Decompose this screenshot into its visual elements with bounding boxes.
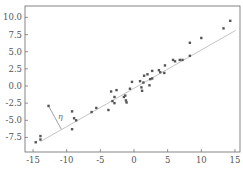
data-point [95, 107, 97, 109]
data-points [35, 20, 232, 144]
data-point [141, 90, 143, 92]
data-point [131, 81, 133, 83]
scatter-chart: -15-10-505101510.07.55.02.50.0-2.5-5.0-7… [0, 0, 243, 170]
data-point [139, 80, 141, 82]
y-tick-label: 7.5 [8, 30, 22, 40]
data-point [181, 59, 183, 61]
x-tick-label: 10 [196, 155, 207, 165]
data-point [71, 110, 73, 112]
x-tick-label: 5 [165, 155, 170, 165]
y-tick-label: 5.0 [8, 47, 22, 57]
residual-label: η [58, 112, 63, 121]
x-tick-label: 0 [131, 155, 136, 165]
data-point [222, 27, 224, 29]
data-point [129, 88, 131, 90]
data-point [115, 89, 117, 91]
data-point [142, 81, 144, 83]
data-point [229, 20, 231, 22]
data-point [39, 135, 41, 137]
regression-line [40, 30, 235, 141]
data-point [75, 119, 77, 121]
data-point [151, 77, 153, 79]
residual-annotation: η [49, 106, 63, 129]
y-tick-label: -7.5 [6, 132, 22, 142]
data-point [107, 109, 109, 111]
data-point [151, 70, 153, 72]
data-point [148, 84, 150, 86]
data-point [189, 42, 191, 44]
axes: -15-10-505101510.07.55.02.50.0-2.5-5.0-7… [3, 6, 240, 165]
data-point [125, 99, 127, 101]
data-point [111, 100, 113, 102]
data-point [179, 59, 181, 61]
data-point [47, 105, 49, 107]
data-point [39, 138, 41, 140]
data-point [73, 117, 75, 119]
x-tick-label: -10 [60, 155, 74, 165]
y-tick-label: 0.0 [8, 81, 22, 91]
data-point [189, 55, 191, 57]
data-point [200, 37, 202, 39]
fit-line [40, 30, 235, 141]
data-point [113, 96, 115, 98]
y-tick-label: 10.0 [3, 12, 22, 22]
plot-frame [25, 6, 240, 152]
data-point [164, 64, 166, 66]
data-point [113, 102, 115, 104]
data-point [35, 141, 37, 143]
data-point [174, 60, 176, 62]
x-tick-label: -5 [96, 155, 104, 165]
data-point [159, 71, 161, 73]
data-point [125, 101, 127, 103]
data-point [71, 128, 73, 130]
data-point [146, 73, 148, 75]
y-tick-label: -5.0 [6, 115, 22, 125]
data-point [143, 75, 145, 77]
data-point [158, 69, 160, 71]
data-point [110, 90, 112, 92]
y-tick-label: 2.5 [8, 64, 22, 74]
x-tick-label: 15 [230, 155, 241, 165]
data-point [163, 72, 165, 74]
x-tick-label: -15 [26, 155, 40, 165]
data-point [140, 86, 142, 88]
data-point [90, 111, 92, 113]
y-tick-label: -2.5 [6, 98, 22, 108]
data-point [124, 94, 126, 96]
